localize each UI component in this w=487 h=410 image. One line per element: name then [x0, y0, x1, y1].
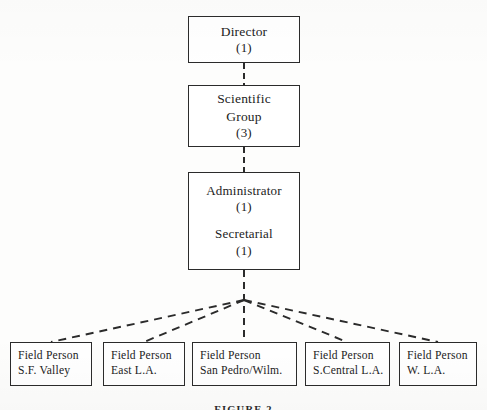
node-secretarial-count: (1) [236, 243, 252, 260]
connector-fan-to-field-1 [144, 300, 244, 342]
field-person-area: San Pedro/Wilm. [200, 364, 292, 379]
node-field-person-south-central-la[interactable]: Field Person S.Central L.A. [305, 342, 390, 386]
field-person-area: W. L.A. [407, 364, 472, 379]
node-director[interactable]: Director (1) [188, 16, 300, 63]
connector-fan-to-field-0 [51, 300, 244, 342]
field-person-area: S.Central L.A. [313, 364, 385, 379]
figure-caption: FIGURE 2 [0, 399, 487, 410]
node-field-person-east-la[interactable]: Field Person East L.A. [103, 342, 185, 386]
field-person-role: Field Person [18, 349, 87, 364]
node-field-person-west-la[interactable]: Field Person W. L.A. [399, 342, 477, 386]
node-administrator-title: Administrator [206, 183, 282, 200]
node-scientific-group-title-line1: Scientific [217, 90, 271, 107]
node-scientific-group[interactable]: Scientific Group (3) [188, 85, 300, 147]
node-secretarial-title: Secretarial [215, 226, 273, 243]
node-administration[interactable]: Administrator (1) Secretarial (1) [188, 172, 300, 270]
node-scientific-group-title-line2: Group [226, 108, 262, 125]
field-person-role: Field Person [407, 349, 472, 364]
node-scientific-group-count: (3) [236, 125, 252, 142]
field-person-area: S.F. Valley [18, 364, 87, 379]
field-person-role: Field Person [200, 349, 292, 364]
field-person-role: Field Person [111, 349, 180, 364]
node-director-title: Director [221, 23, 268, 40]
node-administrator-count: (1) [236, 199, 252, 216]
node-field-person-sf-valley[interactable]: Field Person S.F. Valley [10, 342, 92, 386]
node-director-count: (1) [236, 40, 252, 57]
node-secretarial: Secretarial (1) [215, 226, 273, 259]
node-field-person-san-pedro-wilmington[interactable]: Field Person San Pedro/Wilm. [192, 342, 297, 386]
node-administrator: Administrator (1) [206, 183, 282, 216]
org-chart-figure: Director (1) Scientific Group (3) Admini… [0, 0, 487, 410]
connector-fan-to-field-4 [244, 300, 438, 342]
connector-fan-to-field-3 [244, 300, 347, 342]
field-person-area: East L.A. [111, 364, 180, 379]
field-person-role: Field Person [313, 349, 385, 364]
